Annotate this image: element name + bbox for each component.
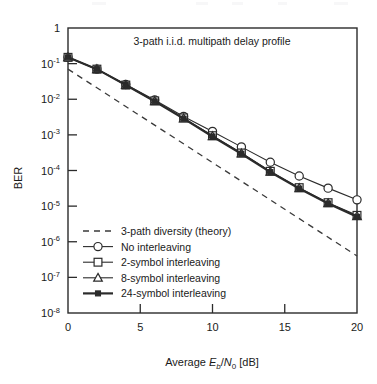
- x-title-n: N: [224, 356, 232, 368]
- x-tick-label: 5: [137, 321, 143, 333]
- x-tick-label: 15: [279, 321, 291, 333]
- y-axis-title-label: BER: [12, 167, 24, 190]
- legend-label: 3-path diversity (theory): [121, 225, 231, 237]
- data-point-marker: [123, 83, 128, 88]
- data-point-marker: [152, 99, 157, 104]
- legend-square-open-icon: [94, 258, 102, 266]
- scan-artifact: [232, 2, 243, 5]
- ber-vs-ebn0-chart: 110-110-210-310-410-510-610-710-80510152…: [0, 0, 377, 384]
- data-point-marker: [181, 116, 186, 121]
- legend-item: 24-symbol interleaving: [83, 287, 226, 299]
- data-point-marker: [324, 184, 332, 192]
- plot-frame: [68, 28, 357, 313]
- data-point-marker: [297, 186, 302, 191]
- y-tick-label: 10-4: [41, 163, 60, 177]
- scan-artifact: [196, 2, 208, 5]
- scan-artifact: [278, 2, 287, 5]
- x-tick-label: 10: [206, 321, 218, 333]
- data-point-marker: [268, 170, 273, 175]
- data-point-marker: [266, 158, 274, 166]
- data-point-marker: [353, 196, 361, 204]
- legend-item: No interleaving: [83, 241, 191, 253]
- x-title-unit: [dB]: [236, 356, 259, 368]
- data-point-marker: [210, 134, 215, 139]
- y-tick-label: 1: [54, 22, 60, 34]
- legend-label: 2-symbol interleaving: [121, 256, 220, 268]
- scan-artifact: [334, 2, 348, 5]
- data-point-marker: [66, 55, 71, 60]
- y-tick-label: 10-7: [41, 270, 60, 284]
- y-tick-label: 10-1: [41, 56, 60, 70]
- scan-artifact: [92, 2, 106, 5]
- legend-item: 2-symbol interleaving: [83, 256, 220, 268]
- y-tick-label: 10-6: [41, 234, 60, 248]
- x-tick-label: 20: [351, 321, 363, 333]
- y-tick-label: 10-5: [41, 199, 60, 213]
- legend-label: 24-symbol interleaving: [121, 287, 226, 299]
- y-tick-label: 10-3: [41, 127, 60, 141]
- legend-item: 8-symbol interleaving: [83, 272, 220, 284]
- y-tick-label: 10-8: [41, 306, 60, 320]
- data-point-marker: [355, 214, 360, 219]
- y-axis-title: BER: [12, 167, 24, 190]
- figure-root: 110-110-210-310-410-510-610-710-80510152…: [0, 0, 377, 384]
- x-tick-label: 0: [65, 321, 71, 333]
- x-axis-title: Average Eb/N0 [dB]: [165, 356, 259, 371]
- x-title-prefix: Average: [165, 356, 209, 368]
- data-point-marker: [239, 151, 244, 156]
- data-point-marker: [295, 172, 303, 180]
- plot-annotation: 3-path i.i.d. multipath delay profile: [133, 35, 290, 47]
- legend-square-filled-icon: [96, 291, 101, 296]
- legend-label: No interleaving: [121, 241, 191, 253]
- legend-item: 3-path diversity (theory): [83, 225, 231, 237]
- chart-generated-layer: 110-110-210-310-410-510-610-710-80510152…: [41, 22, 363, 333]
- legend: 3-path diversity (theory)No interleaving…: [83, 225, 231, 299]
- data-point-marker: [326, 201, 331, 206]
- y-tick-label: 10-2: [41, 92, 60, 106]
- data-point-marker: [94, 67, 99, 72]
- legend-circle-open-icon: [94, 243, 102, 251]
- legend-label: 8-symbol interleaving: [121, 272, 220, 284]
- x-axis-title-label: Average Eb/N0 [dB]: [165, 356, 259, 371]
- series-24-symbol-interleaving: [66, 55, 360, 219]
